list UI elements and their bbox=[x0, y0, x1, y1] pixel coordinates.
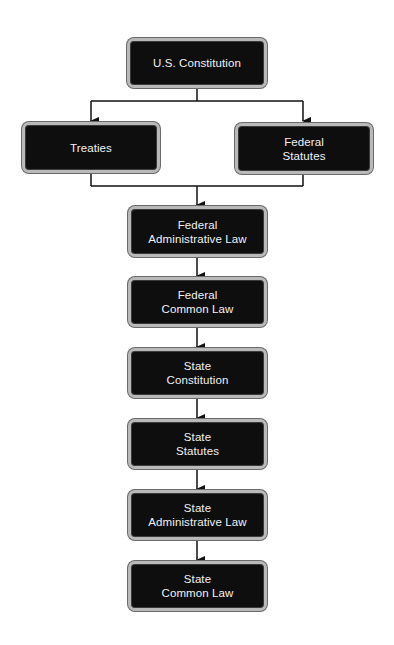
node-federal-common-law: Federal Common Law bbox=[128, 277, 267, 327]
node-treaties: Treaties bbox=[22, 122, 160, 173]
diagram-canvas: U.S. Constitution Treaties Federal Statu… bbox=[0, 0, 394, 645]
node-label-line1: Federal bbox=[178, 218, 218, 232]
node-label-line2: Common Law bbox=[162, 302, 234, 316]
node-label-line1: State bbox=[184, 359, 211, 373]
node-label: Treaties bbox=[70, 141, 112, 155]
node-label-line1: State bbox=[184, 572, 211, 586]
node-label-line1: State bbox=[184, 430, 211, 444]
node-label-line1: State bbox=[184, 501, 211, 515]
node-label-line2: Administrative Law bbox=[148, 232, 246, 246]
node-label: U.S. Constitution bbox=[153, 56, 241, 70]
node-state-statutes: State Statutes bbox=[128, 419, 267, 469]
node-state-constitution: State Constitution bbox=[128, 348, 267, 398]
node-us-constitution: U.S. Constitution bbox=[127, 38, 267, 88]
node-federal-statutes: Federal Statutes bbox=[235, 123, 373, 174]
node-state-administrative-law: State Administrative Law bbox=[128, 490, 267, 540]
node-federal-administrative-law: Federal Administrative Law bbox=[128, 206, 267, 257]
node-label-line2: Constitution bbox=[167, 373, 229, 387]
node-label-line1: Federal bbox=[284, 135, 324, 149]
node-state-common-law: State Common Law bbox=[128, 561, 267, 611]
node-label-line2: Common Law bbox=[162, 586, 234, 600]
node-label-line2: Administrative Law bbox=[148, 515, 246, 529]
node-label-line2: Statutes bbox=[283, 149, 326, 163]
node-label-line2: Statutes bbox=[176, 444, 219, 458]
node-label-line1: Federal bbox=[178, 288, 218, 302]
